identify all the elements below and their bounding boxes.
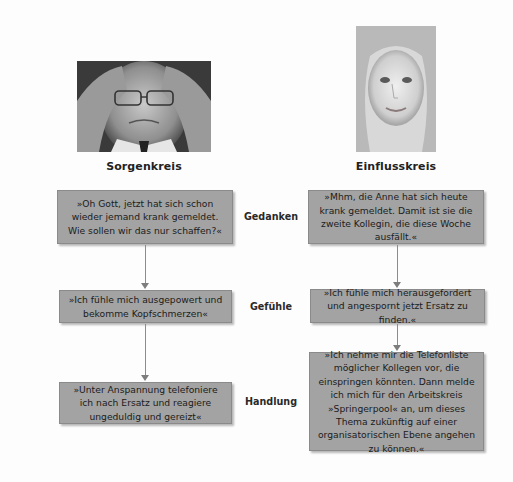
box-text: »Ich nehme mir die Telefonliste mögliche… — [314, 348, 479, 455]
einflusskreis-gefuehle-box: »Ich fühle mich herausgefordert und ange… — [310, 289, 485, 323]
einflusskreis-heading: Einflusskreis — [331, 160, 461, 173]
arrow-down-icon — [141, 283, 149, 289]
box-text: »Unter Anspannung telefoniere ich nach E… — [66, 383, 225, 423]
box-text: »Ich fühle mich herausgefordert und ange… — [317, 286, 478, 326]
einflusskreis-handlung-box: »Ich nehme mir die Telefonliste mögliche… — [309, 352, 484, 451]
sorgenkreis-heading: Sorgenkreis — [77, 160, 211, 173]
connector-line — [397, 245, 398, 283]
arrow-down-icon — [141, 375, 149, 381]
connector-line — [145, 324, 146, 376]
row-label-handlung: Handlung — [236, 396, 306, 407]
einflusskreis-gedanken-box: »Mhm, die Anne hat sich heute krank geme… — [308, 190, 484, 244]
sorgenkreis-handlung-box: »Unter Anspannung telefoniere ich nach E… — [59, 382, 232, 424]
stressed-man-photo — [77, 61, 211, 152]
sorgenkreis-gefuehle-box: »Ich fühle mich ausgepowert und bekomme … — [59, 290, 232, 323]
smiling-woman-photo — [356, 26, 436, 152]
connector-line — [145, 245, 146, 284]
box-text: »Ich fühle mich ausgepowert und bekomme … — [66, 293, 225, 320]
row-label-gefuehle: Gefühle — [236, 301, 306, 312]
row-label-gedanken: Gedanken — [236, 211, 306, 222]
box-text: »Oh Gott, jetzt hat sich schon wieder je… — [64, 197, 226, 237]
box-text: »Mhm, die Anne hat sich heute krank geme… — [315, 190, 477, 244]
connector-line — [397, 324, 398, 346]
sorgenkreis-gedanken-box: »Oh Gott, jetzt hat sich schon wieder je… — [57, 190, 233, 244]
